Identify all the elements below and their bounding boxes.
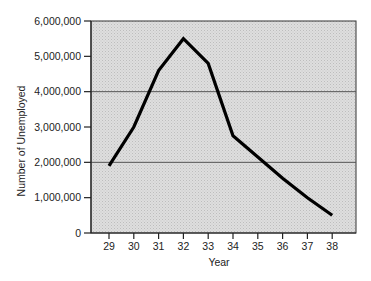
y-tick-label: 6,000,000 [34, 15, 81, 27]
x-tick-label: 31 [153, 240, 165, 252]
y-tick-label: 4,000,000 [34, 85, 81, 97]
y-axis: 01,000,0002,000,0003,000,0004,000,0005,0… [34, 15, 91, 239]
y-tick-label: 1,000,000 [34, 191, 81, 203]
y-tick-label: 5,000,000 [34, 50, 81, 62]
y-tick-label: 3,000,000 [34, 121, 81, 133]
x-tick-label: 34 [227, 240, 239, 252]
x-tick-label: 29 [103, 240, 115, 252]
y-tick-label: 2,000,000 [34, 156, 81, 168]
x-tick-label: 36 [277, 240, 289, 252]
x-axis-title: Year [208, 256, 230, 268]
x-tick-label: 33 [202, 240, 214, 252]
y-tick-label: 0 [75, 227, 81, 239]
x-tick-label: 37 [302, 240, 314, 252]
x-tick-label: 35 [252, 240, 264, 252]
x-tick-label: 30 [128, 240, 140, 252]
x-tick-label: 32 [178, 240, 190, 252]
line-chart: 01,000,0002,000,0003,000,0004,000,0005,0… [0, 0, 371, 281]
plot-area [91, 21, 356, 233]
y-axis-title: Number of Unemployed [15, 85, 27, 196]
x-tick-label: 38 [326, 240, 338, 252]
x-axis: 29303132333435363738 [91, 233, 356, 252]
